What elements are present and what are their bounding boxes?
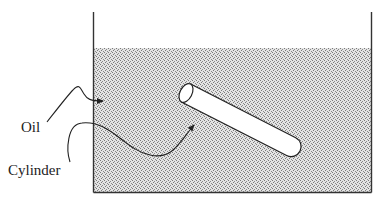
oil-cylinder-diagram: Oil Cylinder xyxy=(0,0,380,201)
cylinder-label: Cylinder xyxy=(8,162,61,178)
oil-label: Oil xyxy=(21,119,40,135)
